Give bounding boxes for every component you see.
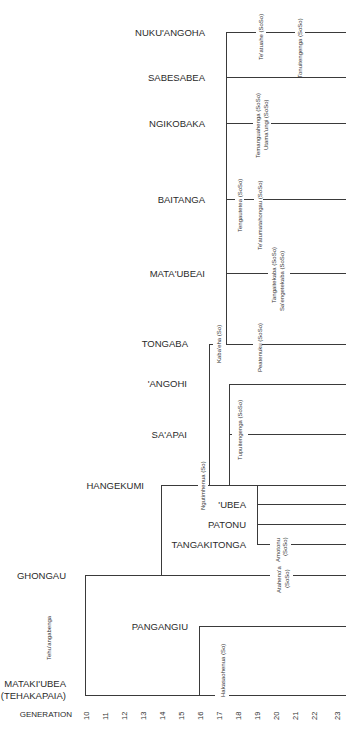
lineage-tehakapaia: (TEHAKAPAIA) (1, 690, 66, 701)
person-atahenoa-relation: (SoSo) (284, 569, 290, 588)
tick-label: 23 (333, 712, 342, 720)
lineage-pangangiu: PANGANGIU (132, 621, 188, 632)
tick-label: 21 (291, 712, 300, 720)
generation-axis: GENERATION 10 11 12 13 14 15 16 17 18 19… (20, 710, 342, 720)
tick-label: 17 (215, 712, 224, 720)
lineage-tangakitonga: TANGAKITONGA (171, 539, 246, 550)
person-tupuitengenga: Tupuitengenga (SoSo) (237, 400, 243, 460)
tick-label: 13 (139, 712, 148, 720)
lineage-saapai: SA'APAI (152, 429, 187, 440)
tick-label: 22 (310, 712, 319, 720)
person-hakasaohenua: Hakasaohenua (So) (220, 644, 226, 697)
person-tonuitengenga: Tonuitengenga (SoSo) (297, 18, 303, 78)
lineage-hangekumi: HANGEKUMI (86, 480, 144, 491)
person-atahenoa: Ataheno'a (276, 566, 282, 593)
lineage-nukuangoha: NUKU'ANGOHA (135, 27, 206, 38)
tick-label: 19 (253, 712, 262, 720)
person-ngutimhenua: Ngutimhenua (So) (200, 461, 206, 510)
person-kabaeha: Kaba'eha (So) (216, 325, 222, 363)
person-amotonu-relation: (SoSo) (282, 537, 288, 556)
lineage-ghongau: GHONGAU (17, 570, 66, 581)
lineage-mataubeai: MATA'UBEAI (150, 268, 205, 279)
lineage-sabesabea: SABESABEA (148, 72, 206, 83)
tick-label: 12 (120, 712, 129, 720)
lineage-tongaba: TONGABA (142, 338, 189, 349)
lineage-patonu: PATONU (208, 519, 246, 530)
tick-label: 20 (272, 712, 281, 720)
tick-label: 14 (158, 712, 167, 720)
lineage-angohi: 'ANGOHI (148, 378, 187, 389)
tick-label: 15 (177, 712, 186, 720)
person-peatenuku: Peatenuku (SoSo) (257, 323, 263, 372)
person-amotonu: Amotonu (275, 538, 281, 562)
lineage-matakiubea: MATAKI'UBEA (4, 678, 66, 689)
tick-label: 18 (234, 712, 243, 720)
axis-title: GENERATION (20, 710, 73, 719)
lineage-labels: NUKU'ANGOHA SABESABEA NGIKOBAKA BAITANGA… (1, 27, 247, 701)
person-teatuahe: Te'atuahe (SoSo) (258, 14, 264, 60)
person-utamaungi: Utama'ungi (SoSo) (263, 99, 269, 150)
tick-label: 10 (82, 712, 91, 720)
lineage-ngikobaka: NGIKOBAKA (149, 118, 206, 129)
person-tehuangabenga: Tehu'angabenga (46, 615, 52, 660)
person-temanguahenga: Temanguahenga (SoSo) (255, 93, 261, 158)
tick-label: 11 (101, 712, 110, 720)
lineage-ubea: 'UBEA (218, 499, 246, 510)
person-saengetekaba: Sa'engetekaba (SoSo) (279, 251, 285, 311)
genealogy-diagram: NUKU'ANGOHA SABESABEA NGIKOBAKA BAITANGA… (0, 0, 346, 730)
tick-label: 16 (196, 712, 205, 720)
person-tengautetea: Tengautetea (SoSo) (237, 179, 243, 232)
person-teatumatahongau: Te'atumatahongau (SoSo) (257, 180, 263, 250)
lineage-baitanga: BAITANGA (158, 194, 206, 205)
person-tangaitekaba: Tangaitekaba (SoSo) (271, 247, 277, 303)
